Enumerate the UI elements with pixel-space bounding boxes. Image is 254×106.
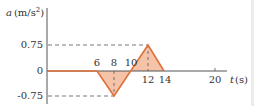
y-tick-075: 0.75 <box>21 39 43 50</box>
x-tick-20: 20 <box>209 74 222 85</box>
x-axis-label: t(s) <box>230 74 248 85</box>
x-tick-6: 6 <box>94 57 100 68</box>
x-tick-14: 14 <box>159 74 172 85</box>
y-axis-label: a(m/s2) <box>6 6 44 18</box>
acceleration-chart: a(m/s2) 0.75 0 -0.75 6 8 10 12 14 20 t(s… <box>0 0 254 106</box>
x-tick-12: 12 <box>142 74 155 85</box>
y-tick-0: 0 <box>37 65 43 76</box>
x-tick-10: 10 <box>125 57 138 68</box>
y-tick-neg075: -0.75 <box>17 90 43 101</box>
x-tick-8: 8 <box>111 57 117 68</box>
